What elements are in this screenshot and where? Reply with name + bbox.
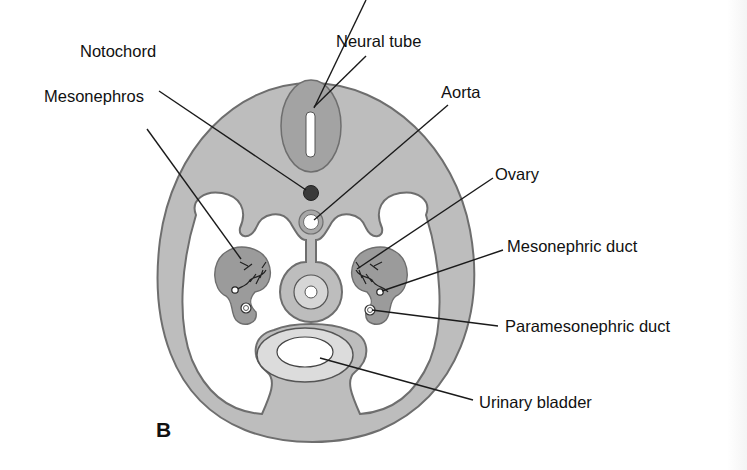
label-mesonephros: Mesonephros <box>44 87 144 105</box>
panel-letter: B <box>156 418 171 441</box>
label-notochord: Notochord <box>80 42 156 60</box>
diagram-canvas: Neural tube Notochord Aorta Mesonephros … <box>0 0 747 470</box>
label-urinary-bladder: Urinary bladder <box>479 393 592 411</box>
right-mesonephric-duct <box>377 289 383 295</box>
left-paramesonephric-duct <box>241 303 251 313</box>
neural-tube <box>281 80 341 172</box>
urinary-bladder <box>257 328 353 382</box>
gut <box>294 275 328 309</box>
label-mesonephric-duct: Mesonephric duct <box>507 237 638 255</box>
scan-edge-shading <box>727 0 747 470</box>
left-mesonephric-duct <box>232 287 238 293</box>
embryo-cross-section-figure: Neural tube Notochord Aorta Mesonephros … <box>0 0 747 470</box>
label-paramesonephric-duct: Paramesonephric duct <box>505 317 671 335</box>
label-neural-tube: Neural tube <box>336 32 421 50</box>
label-ovary: Ovary <box>495 165 540 183</box>
aorta <box>299 210 323 234</box>
label-aorta: Aorta <box>441 83 481 101</box>
notochord <box>304 186 319 201</box>
